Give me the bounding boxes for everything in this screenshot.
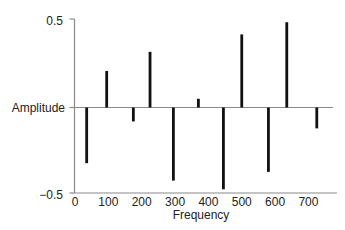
- stem-bar: [240, 34, 243, 107]
- x-tick-label: 0: [72, 195, 79, 209]
- x-tick-label: 600: [265, 195, 285, 209]
- x-tick-label: 500: [232, 195, 252, 209]
- stem-bar: [315, 108, 318, 129]
- x-tick-label: 100: [98, 195, 118, 209]
- x-tick-label: 200: [132, 195, 152, 209]
- x-tick-label: 300: [165, 195, 185, 209]
- amplitude-frequency-chart: 0.5−0.50100200300400500600700 Amplitude …: [0, 0, 345, 230]
- stem-bars: [85, 22, 318, 189]
- stem-bar: [197, 99, 200, 108]
- stem-bar: [149, 52, 152, 108]
- stem-bar: [172, 108, 175, 181]
- x-tick-label: 400: [198, 195, 218, 209]
- stem-bar: [285, 22, 288, 107]
- stem-bar: [222, 108, 225, 190]
- x-axis-label: Frequency: [173, 208, 230, 222]
- y-tick-label: −0.5: [39, 188, 63, 202]
- stem-bar: [85, 108, 88, 164]
- axis-labels: Amplitude Frequency: [12, 101, 230, 222]
- stem-bar: [267, 108, 270, 172]
- stem-bar: [132, 108, 135, 122]
- y-axis-label: Amplitude: [12, 101, 66, 115]
- chart-svg: 0.5−0.50100200300400500600700 Amplitude …: [0, 0, 345, 230]
- x-tick-label: 700: [298, 195, 318, 209]
- y-tick-label: 0.5: [46, 14, 63, 28]
- stem-bar: [105, 71, 108, 108]
- axes: 0.5−0.50100200300400500600700: [39, 14, 337, 209]
